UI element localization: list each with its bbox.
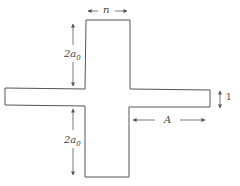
upper-arm-label: 2a0	[64, 49, 81, 62]
cross-diagram	[0, 0, 240, 186]
lower-arm-label-text: 2a	[64, 134, 76, 145]
cross-outline	[5, 20, 210, 177]
lower-arm-label: 2a0	[64, 135, 81, 148]
right-arm-label: A	[164, 115, 171, 125]
thickness-label: 1	[226, 93, 232, 102]
upper-arm-label-text: 2a	[64, 48, 76, 59]
top-width-label: n	[103, 5, 109, 15]
upper-arm-label-sub: 0	[76, 54, 80, 62]
lower-arm-label-sub: 0	[76, 140, 80, 148]
